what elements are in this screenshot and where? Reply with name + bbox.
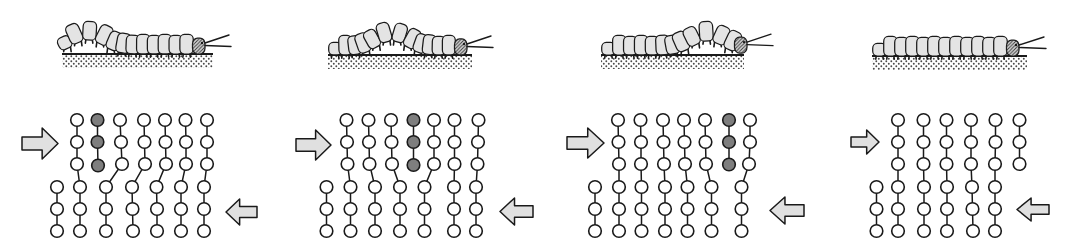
atom-column <box>470 114 485 238</box>
force-arrow-left-icon <box>226 199 257 225</box>
atom-column <box>320 181 333 238</box>
atom-column <box>699 114 718 238</box>
atom-column <box>634 114 648 238</box>
atom-column <box>150 114 172 238</box>
atom-column <box>870 181 883 238</box>
atom-column <box>385 114 407 238</box>
atom-column <box>126 114 152 238</box>
caterpillar-illustration <box>602 21 773 58</box>
atom-column <box>678 114 694 238</box>
force-arrow-right-icon <box>22 128 58 159</box>
atom-column <box>657 114 672 238</box>
atom-column <box>362 114 381 238</box>
atom-column <box>940 114 953 238</box>
dislocation-extra-half-plane <box>407 114 420 172</box>
atom-column <box>612 114 626 238</box>
atom-column <box>735 114 756 238</box>
panel-stage-1 <box>22 21 257 237</box>
figure-canvas <box>0 0 1077 251</box>
atom-column <box>340 114 357 238</box>
atom-column <box>71 114 87 238</box>
atom-lattice <box>51 114 214 238</box>
atom-column <box>100 114 129 238</box>
atom-lattice <box>589 114 757 238</box>
panel-stage-2 <box>296 21 533 237</box>
dislocation-caterpillar-figure <box>0 0 1077 251</box>
force-arrow-left-icon <box>1017 198 1049 221</box>
dislocation-extra-half-plane <box>91 114 104 172</box>
atom-column <box>965 114 980 238</box>
atom-lattice <box>870 114 1026 238</box>
atom-column <box>917 114 930 238</box>
dislocation-extra-half-plane <box>723 114 736 171</box>
force-arrow-right-icon <box>851 130 879 154</box>
caterpillar-illustration <box>56 21 231 57</box>
atom-column <box>1013 114 1026 171</box>
atom-column <box>589 181 602 238</box>
force-arrow-right-icon <box>296 130 331 160</box>
atom-lattice <box>320 114 485 238</box>
atom-column <box>418 114 440 238</box>
atom-column <box>51 181 64 238</box>
panel-stage-4 <box>851 36 1049 237</box>
force-arrow-left-icon <box>770 197 804 224</box>
force-arrow-left-icon <box>500 198 533 225</box>
atom-column <box>448 114 461 238</box>
atom-column <box>175 114 193 238</box>
atom-column <box>892 114 905 238</box>
atom-column <box>198 114 214 238</box>
atom-column <box>989 114 1002 238</box>
caterpillar-illustration <box>329 21 493 58</box>
panel-stage-3 <box>567 21 804 237</box>
force-arrow-right-icon <box>567 128 604 158</box>
